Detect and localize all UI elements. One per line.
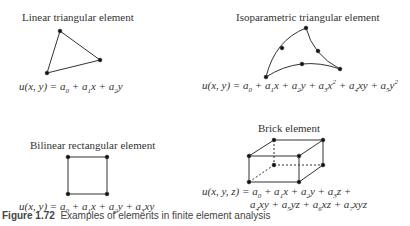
isoparametric-triangle-shape bbox=[264, 26, 342, 79]
linear-triangle-shape bbox=[45, 29, 102, 75]
isoparametric-triangle-label: Isoparametric triangular element bbox=[236, 11, 380, 23]
linear-triangle-label: Linear triangular element bbox=[22, 11, 134, 23]
brick-label: Brick element bbox=[258, 122, 320, 134]
bilinear-rectangle-shape bbox=[66, 155, 109, 196]
isoparametric-triangle-equation: u(x, y) = a0 + a1x + a2y + a3x2 + a4xy +… bbox=[202, 78, 398, 94]
linear-triangle-equation: u(x, y) = a0 + a1x + a2y bbox=[19, 80, 123, 95]
brick-shape bbox=[247, 138, 325, 184]
figure-number: Figure 1.72 bbox=[2, 210, 55, 221]
bilinear-rectangle-label: Bilinear rectangular element bbox=[30, 139, 155, 151]
figure-caption: Figure 1.72 Examples of elements in fini… bbox=[2, 210, 270, 221]
figure-caption-text: Examples of elements in finite element a… bbox=[60, 210, 270, 221]
